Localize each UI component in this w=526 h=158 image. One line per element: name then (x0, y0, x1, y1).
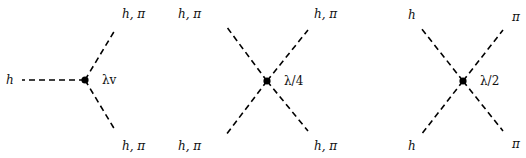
particle-label: h, π (178, 139, 202, 153)
scalar-propagator-line (463, 81, 503, 131)
scalar-propagator-line (226, 81, 267, 135)
scalar-propagator-line (267, 81, 308, 131)
particle-label: π (511, 10, 521, 24)
particle-label: π (511, 137, 521, 151)
vertex-dot (81, 76, 88, 83)
diagram-trilinear: hh, πh, πλv (6, 7, 146, 153)
coupling-label: λv (102, 73, 117, 87)
scalar-propagator-line (226, 26, 267, 81)
particle-label: h, π (122, 139, 146, 153)
scalar-propagator-line (421, 28, 463, 81)
diagram-quartic-all: h, πh, πh, πh, πλ/4 (178, 7, 338, 153)
coupling-label: λ/2 (480, 74, 499, 88)
particle-label: h (408, 139, 416, 153)
particle-label: h, π (314, 139, 338, 153)
particle-label: h, π (178, 7, 202, 21)
scalar-propagator-line (85, 80, 115, 130)
feynman-vertex-diagrams: hh, πh, πλvh, πh, πh, πh, πλ/4hπhπλ/2 (0, 0, 526, 158)
scalar-propagator-line (421, 81, 463, 135)
particle-label: h, π (314, 7, 338, 21)
diagram-quartic-mixed: hπhπλ/2 (408, 8, 521, 153)
particle-label: h (6, 73, 14, 87)
vertex-dot (263, 77, 270, 84)
coupling-label: λ/4 (284, 74, 304, 88)
particle-label: h (408, 8, 416, 22)
particle-label: h, π (122, 7, 146, 21)
vertex-dot (459, 77, 466, 84)
